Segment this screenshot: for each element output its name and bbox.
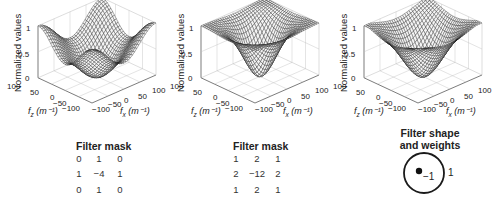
center-dot-icon xyxy=(416,168,422,174)
inner-weight-label: −1 xyxy=(423,171,434,182)
filter-circle-diagram xyxy=(0,0,493,201)
outer-weight-label: 1 xyxy=(448,167,454,178)
